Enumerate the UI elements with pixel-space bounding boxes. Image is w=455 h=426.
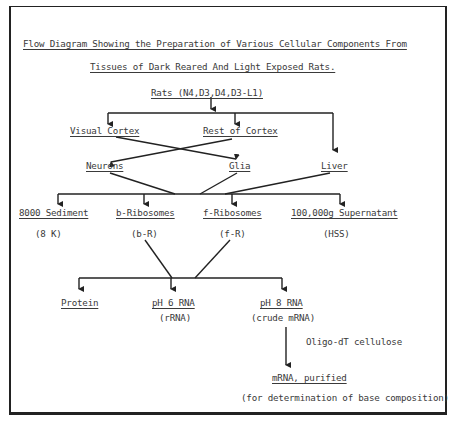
node-glia: Glia xyxy=(229,160,250,171)
node-protein: Protein xyxy=(61,297,98,308)
label-purpose: (for determination of base composition) xyxy=(241,392,449,403)
node-neurons: Neurons xyxy=(86,160,123,171)
node-f-ribosomes-abbr: (f-R) xyxy=(219,228,246,239)
label-oligo-dt-cellulose: Oligo-dT cellulose xyxy=(306,336,402,347)
node-b-ribosomes-abbr: (b-R) xyxy=(131,228,158,239)
node-visual-cortex: Visual Cortex xyxy=(70,125,139,136)
node-b-ribosomes: b-Ribosomes xyxy=(116,207,175,218)
node-liver: Liver xyxy=(321,160,348,171)
node-ph8-rna: pH 8 RNA xyxy=(260,297,303,308)
node-mrna-purified: mRNA, purified xyxy=(272,372,347,383)
node-ph6-rna: pH 6 RNA xyxy=(152,297,195,308)
node-rats: Rats (N4,D3,D4,D3-L1) xyxy=(151,87,263,98)
node-ph6-rna-abbr: (rRNA) xyxy=(159,312,191,323)
node-100000g-supernatant: 100,000g Supernatant xyxy=(291,207,398,218)
node-8000-sediment-abbr: (8 K) xyxy=(35,228,62,239)
node-rest-of-cortex: Rest of Cortex xyxy=(203,125,278,136)
title-line-1: Flow Diagram Showing the Preparation of … xyxy=(23,38,407,49)
title-line-2: Tissues of Dark Reared And Light Exposed… xyxy=(90,61,335,72)
node-f-ribosomes: f-Ribosomes xyxy=(203,207,262,218)
node-ph8-rna-abbr: (crude mRNA) xyxy=(251,312,315,323)
node-8000-sediment: 8000 Sediment xyxy=(19,207,88,218)
node-supernatant-abbr: (HSS) xyxy=(323,228,350,239)
